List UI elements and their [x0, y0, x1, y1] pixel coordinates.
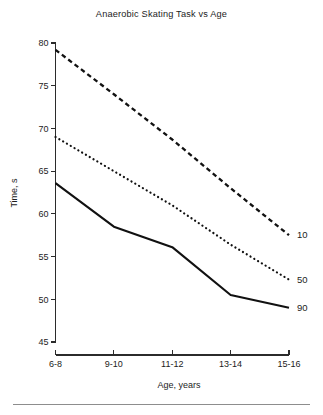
y-axis-tick-label: 60 [38, 209, 48, 219]
series-label-90: 90 [297, 302, 308, 313]
y-axis-tick-label: 50 [38, 295, 48, 305]
x-axis-tick-label: 6-8 [49, 359, 62, 369]
series-label-50: 50 [297, 274, 308, 285]
series-label-10: 10 [297, 229, 308, 240]
y-axis-tick-label: 70 [38, 124, 48, 134]
y-axis: 8075706560555045 [38, 38, 55, 347]
x-axis-tick-label: 11-12 [161, 359, 183, 369]
series-labels: 105090 [297, 229, 308, 313]
x-axis-tick-label: 9-10 [105, 359, 123, 369]
x-axis-tick-label: 13-14 [219, 359, 242, 369]
footer-divider [13, 404, 310, 405]
series-lines [56, 50, 290, 308]
y-axis-tick-label: 80 [38, 38, 48, 48]
chart-figure: Anaerobic Skating Task vs Age 8075706560… [0, 0, 323, 415]
series-line-90 [56, 183, 290, 308]
y-axis-label: Time, s [9, 178, 19, 208]
y-axis-tick-label: 45 [38, 337, 48, 347]
series-line-10 [56, 50, 290, 235]
y-axis-tick-label: 55 [38, 252, 48, 262]
y-axis-tick-label: 75 [38, 81, 48, 91]
x-axis-tick-label: 15-16 [277, 359, 300, 369]
y-axis-tick-label: 65 [38, 166, 48, 176]
chart-plot-area: 8075706560555045 6-89-1011-1213-1415-16 … [0, 0, 323, 415]
x-axis-label: Age, years [157, 380, 201, 390]
x-axis: 6-89-1011-1213-1415-16 [49, 350, 301, 369]
